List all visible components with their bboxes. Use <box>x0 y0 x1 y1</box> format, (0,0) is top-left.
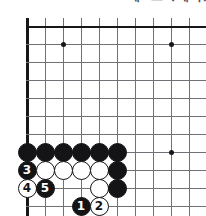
star-point <box>61 42 66 47</box>
stone-black-move-1[interactable]: 1 <box>72 197 91 216</box>
grid-line-vertical <box>153 18 154 216</box>
stone-move-number: 5 <box>41 182 49 194</box>
stone-move-number: 1 <box>77 200 85 212</box>
grid-line-horizontal <box>26 134 206 135</box>
stone-move-number: 2 <box>95 200 103 212</box>
stone-black[interactable] <box>72 143 91 162</box>
grid-line-horizontal <box>26 206 206 207</box>
grid-line-horizontal <box>26 116 206 117</box>
grid-line-vertical <box>63 18 64 216</box>
grid-line-vertical <box>189 18 190 216</box>
stone-black[interactable] <box>18 143 37 162</box>
grid-line-horizontal <box>26 80 206 81</box>
stone-white[interactable] <box>90 179 109 198</box>
stone-white[interactable] <box>72 161 91 180</box>
stone-black[interactable] <box>108 179 127 198</box>
stone-white-move-4[interactable]: 4 <box>18 179 37 198</box>
go-board[interactable]: 34512 <box>0 0 206 216</box>
stone-white[interactable] <box>36 161 55 180</box>
grid-line-horizontal <box>26 26 206 28</box>
go-diagram-screenshot: 제8도 (계속) 34512 <box>0 0 206 216</box>
stone-white-move-2[interactable]: 2 <box>90 197 109 216</box>
stone-black[interactable] <box>108 143 127 162</box>
grid-line-vertical <box>171 18 172 216</box>
stone-black[interactable] <box>36 143 55 162</box>
grid-line-horizontal <box>26 98 206 99</box>
grid-line-horizontal <box>26 62 206 63</box>
star-point <box>169 42 174 47</box>
grid-line-horizontal <box>26 44 206 45</box>
stone-black[interactable] <box>108 161 127 180</box>
stone-black[interactable] <box>90 143 109 162</box>
stone-move-number: 3 <box>23 164 31 176</box>
star-point <box>169 150 174 155</box>
stone-white[interactable] <box>54 161 73 180</box>
stone-black[interactable] <box>54 143 73 162</box>
stone-black-move-5[interactable]: 5 <box>36 179 55 198</box>
stone-black-move-3[interactable]: 3 <box>18 161 37 180</box>
grid-line-vertical <box>81 18 82 216</box>
stone-white[interactable] <box>90 161 109 180</box>
stone-move-number: 4 <box>23 182 31 194</box>
grid-line-vertical <box>135 18 136 216</box>
